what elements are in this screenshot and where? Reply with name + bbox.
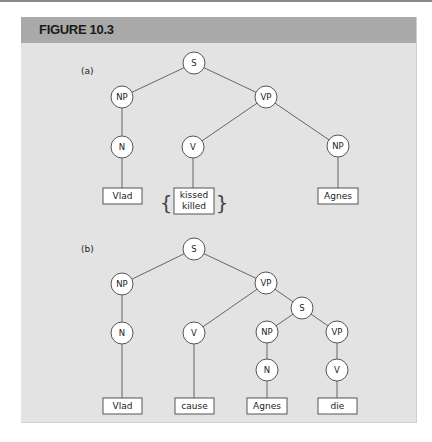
node-n-embedded: N — [256, 359, 278, 381]
node-np: NP — [111, 273, 133, 295]
svg-text:NP: NP — [116, 279, 127, 289]
tree-a: (a) S NP VP N V — [81, 52, 358, 215]
node-s-embedded: S — [291, 297, 313, 319]
svg-text:die: die — [331, 401, 345, 411]
leaf-kissed-killed: kissed killed — [174, 188, 214, 214]
node-v: V — [183, 322, 205, 344]
leaf-vlad: Vlad — [103, 398, 142, 414]
svg-text:Agnes: Agnes — [253, 401, 281, 411]
node-np: NP — [111, 86, 133, 108]
svg-text:N: N — [119, 142, 125, 152]
svg-text:killed: killed — [182, 201, 206, 211]
node-n: N — [111, 136, 133, 158]
svg-text:cause: cause — [181, 401, 208, 411]
right-brace: } — [216, 191, 229, 215]
svg-text:S: S — [299, 303, 304, 313]
svg-text:S: S — [191, 244, 196, 254]
node-np-object: NP — [327, 135, 349, 157]
panel-label-b: (b) — [81, 244, 94, 254]
svg-text:VP: VP — [261, 92, 272, 102]
svg-text:Vlad: Vlad — [113, 401, 133, 411]
node-n: N — [111, 322, 133, 344]
svg-text:NP: NP — [332, 141, 343, 151]
leaf-vlad: Vlad — [103, 188, 142, 204]
syntax-tree-diagram: (a) S NP VP N V — [0, 0, 432, 442]
edge-vp-v — [193, 97, 266, 147]
node-np-embedded: NP — [256, 321, 278, 343]
node-vp: VP — [255, 272, 277, 294]
edge-vp-v — [194, 283, 266, 333]
left-brace: { — [160, 191, 173, 215]
svg-text:N: N — [264, 365, 270, 375]
node-vp: VP — [255, 86, 277, 108]
svg-text:kissed: kissed — [180, 190, 208, 200]
leaf-die: die — [318, 398, 357, 414]
edge-s-vp — [194, 249, 266, 283]
svg-text:VP: VP — [332, 327, 343, 337]
node-v-embedded: V — [326, 359, 348, 381]
leaf-cause: cause — [175, 398, 214, 414]
svg-text:Agnes: Agnes — [324, 191, 352, 201]
node-s: S — [183, 238, 205, 260]
edge-s-np — [122, 249, 194, 284]
tree-b: (b) S NP VP N — [81, 238, 357, 414]
svg-text:NP: NP — [116, 92, 127, 102]
node-vp-embedded: VP — [326, 321, 348, 343]
svg-text:S: S — [191, 58, 196, 68]
panel-label-a: (a) — [81, 66, 94, 76]
svg-text:V: V — [191, 328, 197, 338]
node-v: V — [182, 136, 204, 158]
leaf-agnes: Agnes — [318, 188, 358, 204]
svg-text:N: N — [119, 328, 125, 338]
edge-vp-np — [266, 97, 338, 146]
svg-text:NP: NP — [261, 327, 272, 337]
leaf-agnes: Agnes — [247, 398, 287, 414]
svg-text:Vlad: Vlad — [113, 191, 133, 201]
svg-text:VP: VP — [261, 278, 272, 288]
edge-s-vp — [194, 63, 266, 97]
svg-text:V: V — [334, 365, 340, 375]
node-s: S — [183, 52, 205, 74]
svg-text:V: V — [190, 142, 196, 152]
edge-s-np — [122, 63, 194, 97]
